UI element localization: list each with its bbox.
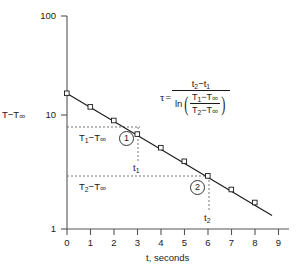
y-tick-label-1: 1 — [30, 224, 56, 234]
subscript-1: 1 — [206, 83, 210, 90]
data-point — [159, 145, 164, 150]
x-axis-ticks — [67, 229, 279, 235]
data-point — [182, 159, 187, 164]
outer-fraction: t2−t1 ln ( T1−T∞ T2−T∞ ) — [172, 78, 230, 115]
x-tick-label-7: 7 — [224, 238, 240, 248]
formula-denominator: ln ( T1−T∞ T2−T∞ ) — [172, 90, 230, 115]
y-axis-ticks — [61, 16, 67, 229]
data-point — [112, 118, 117, 123]
subscript-2: 2 — [207, 217, 211, 224]
infinity-glyph: ∞ — [100, 134, 106, 144]
data-point — [229, 187, 234, 192]
label-t1: t1 — [133, 163, 139, 173]
callout-1: 1 — [119, 131, 134, 146]
subscript-2: 2 — [85, 186, 89, 193]
infinity-glyph: ∞ — [19, 111, 25, 121]
formula-numerator: t2−t1 — [189, 78, 213, 90]
x-tick-label-3: 3 — [130, 238, 146, 248]
y-tick-label-10: 10 — [30, 110, 56, 120]
inner-denominator: T2−T∞ — [190, 103, 220, 115]
tau-symbol: τ — [160, 91, 164, 103]
callout-2: 2 — [190, 180, 205, 195]
x-tick-label-0: 0 — [59, 238, 75, 248]
ln-symbol: ln — [175, 98, 182, 109]
infinity-glyph: ∞ — [100, 183, 106, 193]
paren-open: ( — [185, 94, 189, 114]
x-axis-title: t, seconds — [146, 253, 189, 263]
data-point — [65, 91, 70, 96]
data-point — [135, 132, 140, 137]
label-t2: t2 — [204, 213, 210, 223]
subscript-2: 2 — [194, 83, 198, 90]
y-axis-title: T−T∞ — [2, 110, 25, 120]
data-point — [206, 174, 211, 179]
x-tick-label-4: 4 — [153, 238, 169, 248]
chart-figure: 100 10 1 T−T∞ 0 1 2 3 4 5 6 7 8 9 t, sec… — [0, 0, 302, 270]
time-constant-formula: τ = t2−t1 ln ( T1−T∞ T2−T∞ ) — [160, 78, 230, 115]
x-tick-label-6: 6 — [200, 238, 216, 248]
inner-fraction: T1−T∞ T2−T∞ — [190, 92, 220, 115]
x-tick-label-1: 1 — [83, 238, 99, 248]
subscript-1: 1 — [198, 96, 202, 103]
y-tick-label-100: 100 — [30, 11, 56, 21]
infinity-glyph: ∞ — [212, 93, 218, 103]
subscript-2: 2 — [198, 109, 202, 116]
label-T1-minus-Tinf: T1−T∞ — [79, 133, 106, 143]
x-tick-label-5: 5 — [177, 238, 193, 248]
equals-sign: = — [165, 91, 171, 102]
label-T2-minus-Tinf: T2−T∞ — [79, 182, 106, 192]
x-tick-label-9: 9 — [271, 238, 287, 248]
ln-expression: ln ( T1−T∞ T2−T∞ ) — [175, 92, 227, 115]
subscript-1: 1 — [85, 137, 89, 144]
data-point — [88, 105, 93, 110]
data-point — [253, 200, 258, 205]
x-tick-label-2: 2 — [106, 238, 122, 248]
y-axis-title-text: T−T∞ — [2, 109, 25, 120]
infinity-glyph: ∞ — [212, 106, 218, 116]
inner-numerator: T1−T∞ — [190, 92, 220, 103]
subscript-1: 1 — [136, 167, 140, 174]
paren-close: ) — [221, 94, 225, 114]
x-tick-label-8: 8 — [247, 238, 263, 248]
